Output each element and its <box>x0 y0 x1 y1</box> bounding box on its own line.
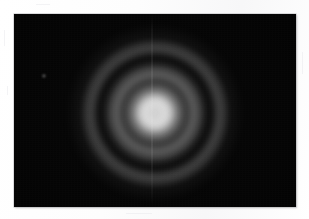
detector-frame <box>14 14 296 207</box>
image-page <box>0 0 309 219</box>
paper-speck <box>126 213 152 214</box>
paper-speck <box>302 52 303 74</box>
paper-speck <box>7 86 8 95</box>
paper-speck <box>4 30 5 46</box>
paper-speck <box>36 4 50 5</box>
detector-background <box>14 14 296 207</box>
